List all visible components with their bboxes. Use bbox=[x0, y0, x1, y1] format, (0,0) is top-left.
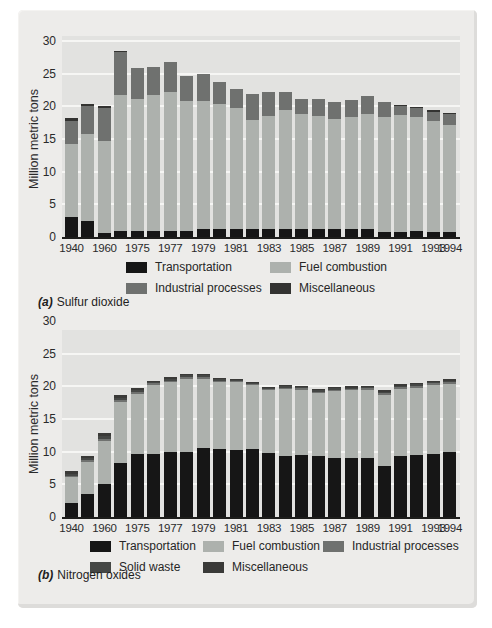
bar-segment-miscellaneous bbox=[312, 389, 325, 390]
bar-segment-solid-waste bbox=[262, 388, 275, 389]
bar-segment-solid-waste bbox=[81, 458, 94, 460]
bar-segment-fuel-combustion bbox=[378, 395, 391, 466]
bar-segment-solid-waste bbox=[65, 474, 78, 476]
x-tick-label-1987: 1987 bbox=[322, 522, 346, 534]
legend-label: Fuel combustion bbox=[232, 539, 320, 553]
bar-segment-solid-waste bbox=[410, 384, 423, 385]
bar-1994 bbox=[443, 330, 456, 517]
bar-segment-miscellaneous bbox=[98, 433, 111, 436]
bar-segment-solid-waste bbox=[443, 381, 456, 382]
bar-segment-solid-waste bbox=[279, 386, 292, 387]
bar-segment-solid-waste bbox=[213, 379, 226, 380]
y-tick-label-30: 30 bbox=[26, 314, 56, 328]
bar-segment-transportation bbox=[230, 450, 243, 517]
y-tick-label-20: 20 bbox=[26, 379, 56, 393]
bar-segment-industrial-processes bbox=[131, 392, 144, 394]
bar-segment-miscellaneous bbox=[131, 388, 144, 390]
bar-segment-fuel-combustion bbox=[427, 385, 440, 454]
bar-segment-fuel-combustion bbox=[65, 477, 78, 503]
caption-text: Nitrogen oxides bbox=[57, 568, 140, 582]
legend-swatch-icon bbox=[323, 541, 344, 552]
bar-segment-transportation bbox=[410, 455, 423, 517]
bar-segment-miscellaneous bbox=[114, 395, 127, 398]
bar-segment-miscellaneous bbox=[427, 381, 440, 382]
bar-segment-transportation bbox=[361, 458, 374, 517]
bar-segment-transportation bbox=[262, 453, 275, 517]
bar-segment-industrial-processes bbox=[81, 460, 94, 462]
y-tick-label-0: 0 bbox=[26, 510, 56, 524]
bar-segment-solid-waste bbox=[378, 392, 391, 393]
bar-1990 bbox=[378, 330, 391, 517]
bar-segment-miscellaneous bbox=[262, 387, 275, 388]
bar-segment-industrial-processes bbox=[378, 393, 391, 395]
bar-segment-industrial-processes bbox=[197, 377, 210, 379]
bar-segment-miscellaneous bbox=[361, 386, 374, 387]
bar-1992 bbox=[410, 330, 423, 517]
y-tick-label-10: 10 bbox=[26, 445, 56, 459]
bar-segment-solid-waste bbox=[180, 375, 193, 376]
bar-segment-transportation bbox=[378, 466, 391, 517]
caption-letter: (b) bbox=[38, 568, 53, 582]
bar-segment-miscellaneous bbox=[279, 385, 292, 386]
bar-segment-solid-waste bbox=[394, 386, 407, 387]
bar-segment-fuel-combustion bbox=[114, 402, 127, 463]
bar-segment-industrial-processes bbox=[246, 384, 259, 385]
legend-label: Industrial processes bbox=[352, 539, 459, 553]
bar-segment-transportation bbox=[345, 458, 358, 517]
bar-segment-fuel-combustion bbox=[328, 391, 341, 458]
bar-segment-industrial-processes bbox=[164, 380, 177, 382]
x-tick-label-1940: 1940 bbox=[59, 522, 83, 534]
chart-nitrogen-oxides: Million metric tons 302520151050 1940196… bbox=[18, 10, 477, 608]
bar-segment-miscellaneous bbox=[378, 390, 391, 391]
legend-item-transportation: Transportation bbox=[90, 539, 203, 553]
bar-segment-industrial-processes bbox=[262, 389, 275, 390]
bar-segment-fuel-combustion bbox=[246, 385, 259, 449]
bar-segment-industrial-processes bbox=[410, 386, 423, 388]
bar-segment-fuel-combustion bbox=[410, 388, 423, 455]
bar-segment-fuel-combustion bbox=[81, 462, 94, 493]
bar-segment-fuel-combustion bbox=[394, 389, 407, 456]
x-tick-label-1960: 1960 bbox=[92, 522, 116, 534]
bar-segment-miscellaneous bbox=[81, 456, 94, 459]
bar-segment-solid-waste bbox=[361, 387, 374, 388]
bar-1983 bbox=[262, 330, 275, 517]
bar-segment-miscellaneous bbox=[180, 374, 193, 375]
bar-segment-fuel-combustion bbox=[197, 379, 210, 448]
bar-segment-transportation bbox=[279, 456, 292, 517]
bar-segment-industrial-processes bbox=[98, 439, 111, 441]
bar-segment-transportation bbox=[213, 449, 226, 517]
bar-segment-solid-waste bbox=[295, 387, 308, 388]
bar-segment-transportation bbox=[394, 456, 407, 517]
bar-segment-industrial-processes bbox=[328, 390, 341, 391]
bar-segment-transportation bbox=[246, 449, 259, 517]
bar-segment-fuel-combustion bbox=[345, 390, 358, 458]
bar-segment-miscellaneous bbox=[410, 383, 423, 384]
bar-segment-solid-waste bbox=[246, 382, 259, 383]
bar-segment-transportation bbox=[427, 454, 440, 517]
legend-swatch-icon bbox=[90, 541, 111, 552]
bar-segment-transportation bbox=[65, 503, 78, 517]
bar-segment-miscellaneous bbox=[295, 386, 308, 387]
bar-segment-transportation bbox=[114, 463, 127, 517]
bar-1975 bbox=[131, 330, 144, 517]
bar-segment-industrial-processes bbox=[180, 377, 193, 379]
bar-segment-miscellaneous bbox=[147, 381, 160, 382]
bar-segment-industrial-processes bbox=[114, 400, 127, 402]
bar-segment-solid-waste bbox=[345, 388, 358, 389]
bar-segment-miscellaneous bbox=[65, 471, 78, 474]
x-tick-label-1981: 1981 bbox=[224, 522, 248, 534]
caption-nitrogen-oxides: (b)Nitrogen oxides bbox=[38, 568, 141, 582]
bar-segment-industrial-processes bbox=[345, 389, 358, 390]
bar-segment-miscellaneous bbox=[345, 386, 358, 387]
x-tick-label-1985: 1985 bbox=[290, 522, 314, 534]
bar-segment-miscellaneous bbox=[246, 382, 259, 383]
bar-segment-fuel-combustion bbox=[443, 384, 456, 453]
bar-1984 bbox=[279, 330, 292, 517]
bar-segment-fuel-combustion bbox=[279, 389, 292, 456]
y-tick-label-25: 25 bbox=[26, 347, 56, 361]
bar-segment-industrial-processes bbox=[295, 388, 308, 389]
x-tick-label-1975: 1975 bbox=[125, 522, 149, 534]
bar-segment-fuel-combustion bbox=[230, 382, 243, 449]
bar-1988 bbox=[345, 330, 358, 517]
bar-segment-transportation bbox=[197, 448, 210, 517]
